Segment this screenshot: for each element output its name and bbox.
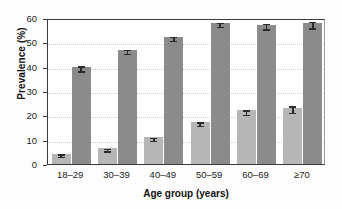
bar: [303, 23, 322, 164]
error-bar-cap-upper: [217, 23, 224, 24]
error-bar-cap-lower: [289, 113, 296, 114]
y-axis-tick: [43, 116, 47, 117]
error-bar-cap-lower: [104, 151, 111, 152]
y-axis-tick-label: 40: [15, 63, 37, 73]
y-axis-tick-label: 60: [15, 14, 37, 24]
x-axis-tick-label: 60–69: [232, 170, 278, 180]
y-axis-tick: [43, 141, 47, 142]
error-bar-cap-upper: [104, 149, 111, 150]
plot-area: [47, 19, 325, 165]
error-bar-cap-upper: [58, 154, 65, 155]
error-bar-cap-lower: [263, 29, 270, 30]
error-bar-cap-lower: [78, 71, 85, 72]
bar: [118, 50, 137, 164]
gridline: [48, 44, 324, 45]
y-axis-tick: [43, 19, 47, 20]
x-axis-tick-label: 40–49: [140, 170, 186, 180]
figure-container: Prevalence (%) 0102030405060 18–2930–394…: [0, 0, 342, 209]
x-axis-tick-label: ≥70: [279, 170, 325, 180]
error-bar-cap-upper: [289, 106, 296, 107]
error-bar-cap-upper: [150, 138, 157, 139]
error-bar-cap-upper: [78, 66, 85, 67]
error-bar-cap-upper: [170, 37, 177, 38]
error-bar-cap-upper: [263, 24, 270, 25]
y-axis-tick: [43, 68, 47, 69]
error-bar-cap-lower: [170, 41, 177, 42]
y-axis-tick: [43, 43, 47, 44]
x-axis-tick-label: 50–59: [186, 170, 232, 180]
bar: [72, 67, 91, 164]
bar: [191, 122, 210, 164]
error-bar-cap-upper: [243, 110, 250, 111]
error-bar-cap-lower: [124, 54, 131, 55]
bar: [211, 23, 230, 164]
bar: [257, 25, 276, 164]
x-axis-tick-label: 30–39: [93, 170, 139, 180]
x-axis-tick-label: 18–29: [47, 170, 93, 180]
y-axis-tick-label: 50: [15, 38, 37, 48]
x-axis-title: Age group (years): [47, 188, 325, 199]
y-axis-tick-label: 10: [15, 136, 37, 146]
error-bar-cap-lower: [217, 27, 224, 28]
y-axis-tick-label: 20: [15, 111, 37, 121]
bar: [283, 108, 302, 164]
error-bar-cap-upper: [309, 22, 316, 23]
y-axis-tick-label: 30: [15, 87, 37, 97]
error-bar-cap-upper: [124, 50, 131, 51]
bar: [164, 37, 183, 164]
y-axis-tick: [43, 165, 47, 166]
error-bar-cap-lower: [197, 126, 204, 127]
error-bar-cap-upper: [197, 122, 204, 123]
bar: [237, 110, 256, 164]
error-bar-cap-lower: [58, 157, 65, 158]
error-bar-cap-lower: [309, 28, 316, 29]
error-bar-cap-lower: [150, 141, 157, 142]
y-axis-tick: [43, 92, 47, 93]
error-bar-cap-lower: [243, 115, 250, 116]
y-axis-tick-label: 0: [15, 160, 37, 170]
